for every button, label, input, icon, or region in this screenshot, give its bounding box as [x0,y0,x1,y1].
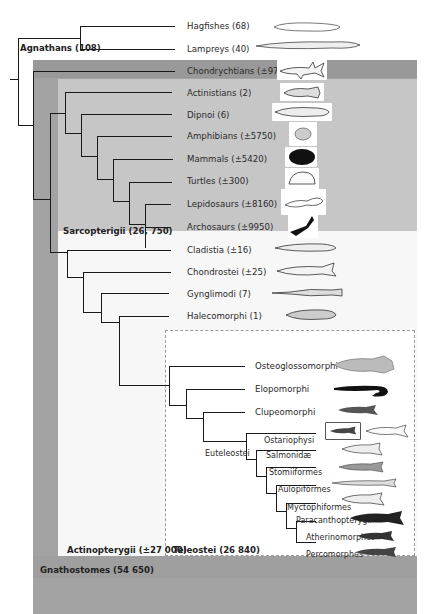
frog-icon [289,122,317,146]
sturgeon-icon [274,261,338,279]
eel-icon [332,380,390,400]
taxon-label-turtles: Turtles (±300) [187,176,249,186]
gar-icon [270,285,346,299]
taxon-label-dipnoi: Dipnoi (6) [187,110,229,120]
mouse-icon [285,147,317,167]
hagfish-icon [272,20,342,34]
taxon-label-halecomorphi: Halecomorphi (1) [187,311,262,321]
taxon-label-aulopiformes: Aulopiformes [278,485,331,495]
herring-icon [336,404,380,416]
taxon-label-stomiiformes: Stomiiformes [269,468,322,478]
group-label-agnathans: Agnathans (108) [20,43,101,53]
taxon-label-actinistians: Actinistians (2) [187,88,251,98]
lamprey-icon [252,38,364,52]
taxon-label-elopomorphi: Elopomorphi [255,384,309,394]
taxon-label-amphibians: Amphibians (±5750) [187,131,276,141]
bowfin-icon [283,306,339,322]
taxon-label-hagfishes: Hagfishes (68) [187,21,250,31]
taxon-label-chondrostei: Chondrostei (±25) [187,267,266,277]
taxon-label-ostariophysi: Ostariophysi [264,436,314,446]
stomiiformes-icon [337,460,385,474]
ostariophysi-icon [325,422,361,440]
shark-icon [277,60,327,80]
group-label-gnathostomes: Gnathostomes (54 650) [40,565,154,575]
coelacanth-icon [280,83,324,101]
lanternfish-icon [340,491,386,507]
group-label-euteleostei: Euteleostei [205,449,250,459]
group-label-sarcopterigii: Sarcopterigii (26, 750) [63,226,173,236]
atherinomorph-icon [356,530,396,542]
catfish-icon [364,422,410,440]
tortoise-icon [285,168,319,190]
taxon-label-osteoglossomorphi: Osteoglossomorphi [255,361,338,371]
percomorph-icon [354,546,398,558]
taxon-label-gynglimodi: Gynglimodi (7) [187,289,251,299]
cod-icon [348,509,406,527]
aulopiformes-icon [330,478,398,488]
taxon-label-chondrychtians: Chondrychtians (±970) [187,66,287,76]
taxon-label-salmonidae: Salmonidæ [266,451,311,461]
taxon-label-lampreys: Lampreys (40) [187,44,249,54]
taxon-label-clupeomorphi: Clupeomorphi [255,407,315,417]
taxon-label-archosaurs: Archosaurs (±9950) [187,222,273,232]
group-label-actinopterygii: Actinopterygii (±27 000) [67,545,187,555]
arowana-icon [332,353,396,377]
taxon-label-cladistia: Cladistia (±16) [187,245,252,255]
taxon-label-mammals: Mammals (±5420) [187,154,267,164]
group-label-teleostei: Teleostei (26 840) [173,545,260,555]
taxon-label-lepidosaurs: Lepidosaurs (±8160) [187,199,277,209]
bichir-icon [272,240,338,254]
salmon-icon [340,441,384,457]
lungfish-icon [272,103,332,121]
bird-icon [288,212,318,238]
